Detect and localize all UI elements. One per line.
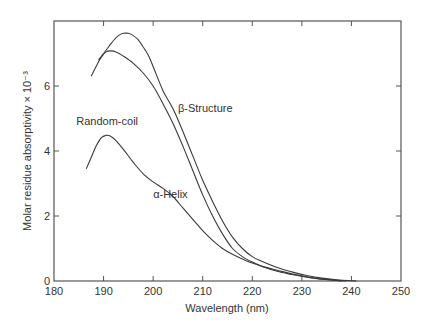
x-axis-label: Wavelength (nm) (185, 302, 268, 314)
y-tick-label: 2 (44, 210, 50, 222)
series-label-structure: β-Structure (178, 102, 233, 114)
y-tick-label: 4 (44, 145, 50, 157)
x-tick-label: 210 (194, 285, 212, 297)
series-label-helix: α-Helix (153, 188, 188, 200)
series-label-random-coil: Random-coil (76, 115, 138, 127)
y-tick-label: 0 (44, 275, 50, 287)
x-tick-label: 190 (94, 285, 112, 297)
y-axis-label: Molar residue absorptivity × 10⁻³ (21, 71, 33, 231)
x-tick-label: 230 (293, 285, 311, 297)
x-tick-label: 200 (144, 285, 162, 297)
x-tick-label: 220 (243, 285, 261, 297)
data-series (86, 33, 356, 281)
series-labels: β-StructureRandom-coilα-Helix (76, 102, 232, 200)
x-axis-ticks: 180190200210220230240250 (45, 21, 410, 297)
y-tick-label: 6 (44, 80, 50, 92)
series-line-random-coil (91, 51, 341, 281)
x-tick-label: 240 (342, 285, 360, 297)
x-tick-label: 250 (392, 285, 410, 297)
absorption-spectrum-chart: 180190200210220230240250 0246 β-Structur… (0, 0, 429, 323)
series-line-structure (99, 33, 357, 281)
